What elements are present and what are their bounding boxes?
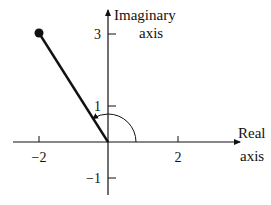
complex-point <box>35 29 44 38</box>
y-tick-label-3: 3 <box>94 27 101 42</box>
real-axis-label: Real <box>238 125 266 141</box>
y-tick-label-1: 1 <box>94 99 101 114</box>
x-tick-label-2: 2 <box>175 150 182 165</box>
imaginary-axis-label: Imaginary <box>114 7 176 23</box>
x-tick-label-neg2: −2 <box>32 150 47 165</box>
complex-plane-diagram: −2 2 3 1 −1 Imaginary axis Real axis <box>0 0 271 205</box>
complex-vector <box>39 33 108 142</box>
real-axis-label-2: axis <box>240 148 264 164</box>
y-tick-label-neg1: −1 <box>86 171 101 186</box>
imaginary-axis-label-2: axis <box>139 25 163 41</box>
